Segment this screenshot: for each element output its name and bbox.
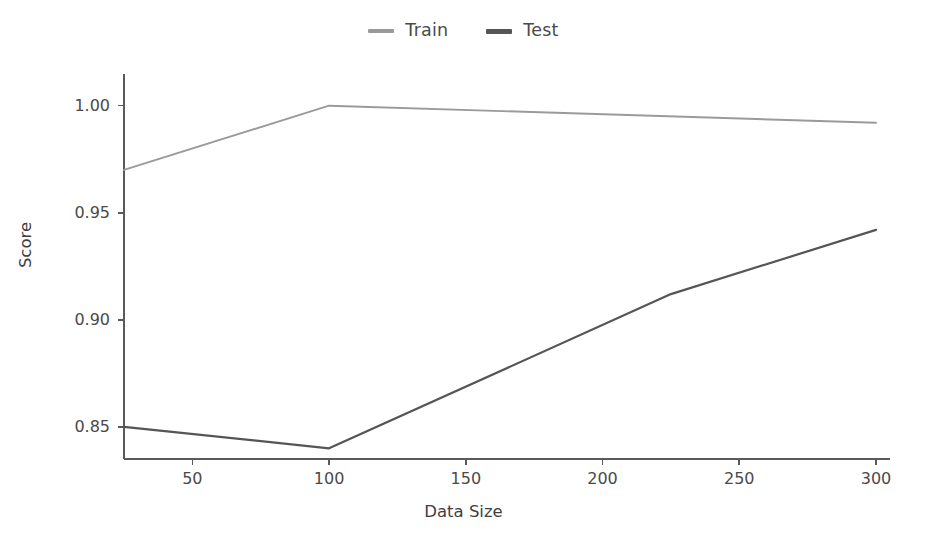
y-tick-label: 0.90 bbox=[55, 312, 110, 328]
x-tick-label: 250 bbox=[724, 471, 755, 487]
x-axis-title: Data Size bbox=[0, 504, 927, 521]
x-tick-label: 150 bbox=[451, 471, 482, 487]
axis-spines bbox=[124, 74, 890, 459]
x-tick-label: 50 bbox=[182, 471, 202, 487]
y-tick-label: 1.00 bbox=[55, 98, 110, 114]
y-tick-marks bbox=[118, 106, 124, 427]
y-tick-label: 0.85 bbox=[55, 419, 110, 435]
chart-figure: Train Test 0.850.900.951.00 501001502002… bbox=[0, 0, 927, 554]
x-tick-label: 200 bbox=[587, 471, 618, 487]
y-axis-title: Score bbox=[18, 222, 35, 268]
plot-area: 0.850.900.951.00 50100150200250300 Data … bbox=[0, 0, 927, 554]
x-tick-label: 100 bbox=[314, 471, 345, 487]
series-lines bbox=[124, 106, 876, 449]
x-tick-marks bbox=[192, 459, 876, 465]
y-tick-label: 0.95 bbox=[55, 205, 110, 221]
x-tick-label: 300 bbox=[861, 471, 892, 487]
